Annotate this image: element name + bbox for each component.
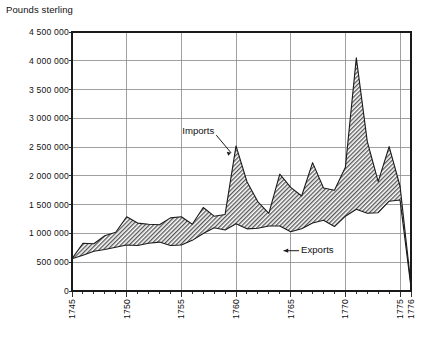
x-axis-tick-label: 1765 bbox=[286, 299, 296, 319]
y-axis-tick-label: 4 000 000 bbox=[3, 56, 69, 66]
imports-label: Imports bbox=[182, 125, 214, 136]
y-axis-tick-labels: 4 500 0004 000 0003 500 0003 000 0002 50… bbox=[0, 0, 69, 352]
x-axis-tick-label: 1760 bbox=[231, 299, 241, 319]
y-axis-tick-label: 4 500 000 bbox=[3, 27, 69, 37]
y-axis-tick-label: 500 000 bbox=[3, 257, 69, 267]
y-axis-tick-label: 2 000 000 bbox=[3, 171, 69, 181]
x-axis-tick-label: 1755 bbox=[176, 299, 186, 319]
chart-root: Pounds sterling 4 500 0004 000 0003 500 … bbox=[0, 0, 427, 352]
x-axis-tick-label: 1770 bbox=[340, 299, 350, 319]
y-axis-tick-label: 1 000 000 bbox=[3, 228, 69, 238]
x-axis-tick-label: 1745 bbox=[67, 299, 77, 319]
y-axis-tick-label: 3 500 000 bbox=[3, 85, 69, 95]
y-axis-tick-label: 0 bbox=[3, 286, 69, 296]
y-axis-tick-label: 3 000 000 bbox=[3, 113, 69, 123]
exports-label: Exports bbox=[301, 244, 334, 255]
import-export-band bbox=[72, 58, 411, 288]
x-axis-tick-label: 1775 bbox=[395, 299, 405, 319]
x-axis-tick-label: 1776 bbox=[406, 299, 416, 319]
y-axis-tick-label: 2 500 000 bbox=[3, 142, 69, 152]
y-axis-tick-label: 1 500 000 bbox=[3, 200, 69, 210]
x-axis-tick-label: 1750 bbox=[122, 299, 132, 319]
